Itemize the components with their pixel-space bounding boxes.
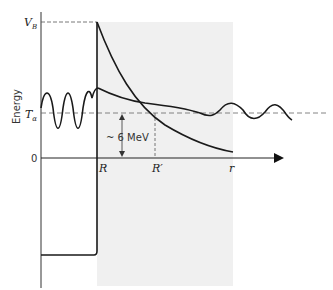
vb-label: VB bbox=[24, 16, 37, 31]
zero-label: 0 bbox=[31, 153, 37, 164]
energy-axis-label: Energy bbox=[11, 89, 22, 124]
gap-energy-label: ~ 6 MeV bbox=[106, 132, 149, 143]
alpha-decay-diagram: VB Tα 0 Energy R R′ r ~ 6 MeV bbox=[0, 0, 333, 290]
r-nucleus-label: R bbox=[98, 162, 107, 175]
wavefunction-inside bbox=[41, 88, 98, 128]
r-axis-label: r bbox=[229, 162, 235, 175]
t-alpha-label: Tα bbox=[25, 108, 37, 123]
barrier-shaded-region bbox=[97, 22, 233, 286]
r-axis-arrow-icon bbox=[274, 153, 284, 163]
r-prime-label: R′ bbox=[151, 162, 163, 175]
potential-well bbox=[41, 22, 97, 255]
